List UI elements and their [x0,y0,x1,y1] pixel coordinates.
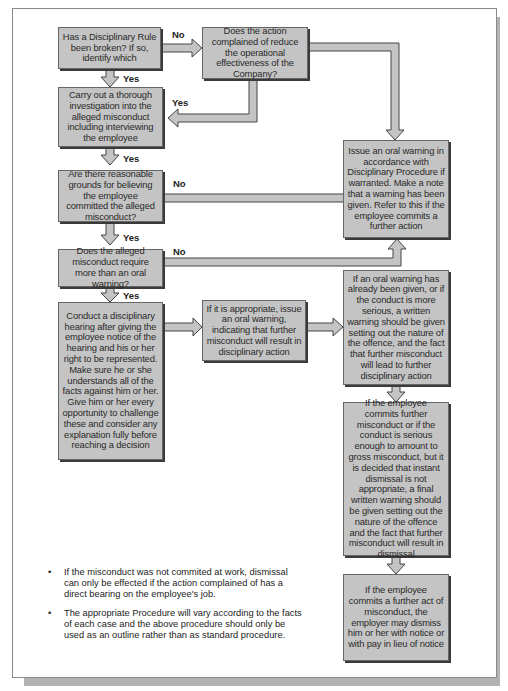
bullet-icon: • [48,567,51,578]
box-investigate: Carry out a thorough investigation into … [58,87,163,147]
box-reasonable-grounds: Are there reasonable grounds for believi… [58,170,163,222]
label-yes: Yes [172,97,188,108]
label-no: No [173,178,186,189]
box-rule-broken: Has a Disciplinary Rule been broken? If … [58,27,161,69]
box-reduce-effectiveness: Does the action complained of reduce the… [202,27,308,79]
box-issue-oral-if-appropriate: If it is appropriate, issue an oral warn… [202,300,306,361]
box-hearing: Conduct a disciplinary hearing after giv… [58,302,163,460]
label-yes: Yes [123,232,139,243]
bullet-icon: • [48,608,51,619]
arrow-down-icon [101,68,119,87]
box-dismiss: If the employee commits a further act of… [343,574,449,661]
label-no: No [172,29,185,40]
label-yes: Yes [123,153,139,164]
arrow-right-icon [306,318,343,336]
note-item: • If the misconduct was not commited at … [52,567,302,600]
arrow-down-icon [308,43,404,140]
arrow-up-icon [163,239,406,266]
box-written-warning: If an oral warning has already been give… [343,270,449,385]
footnotes: • If the misconduct was not commited at … [52,567,302,649]
arrow-down-icon [101,146,119,165]
label-yes: Yes [123,290,139,301]
arrow-down-icon [101,222,119,245]
note-item: • The appropriate Procedure will vary ac… [52,608,302,641]
label-yes: Yes [123,73,139,84]
box-oral-warning-note: Issue an oral warning in accordance with… [343,140,449,238]
box-more-than-oral: Does the alleged misconduct require more… [58,249,163,287]
label-no: No [173,246,186,257]
arrow-right-icon [160,39,202,57]
box-final-written-warning: If the employee commits further miscondu… [343,402,449,556]
arrow-right-icon [163,318,202,336]
arrow-right-icon [163,189,365,207]
